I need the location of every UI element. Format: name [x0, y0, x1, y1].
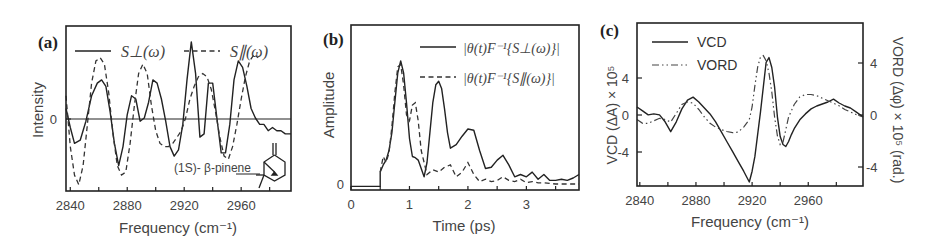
- x-tick-label: 2: [464, 197, 471, 212]
- series-solid-line: [66, 42, 291, 166]
- series-solid-line: [637, 58, 863, 182]
- legend-par-transform: |θ(t)F⁻¹{S∥(ω)}|: [463, 71, 555, 87]
- panel-c-left-tick-label: 4: [622, 71, 629, 86]
- panel-a: (a) 2840288029202960 0 Frequency (cm⁻¹) …: [29, 26, 291, 236]
- legend-s-par: S∥(ω): [230, 43, 268, 61]
- panel-c-frame: [637, 23, 863, 186]
- panel-c-left-y-axis-label: VCD (ΔA) × 10⁵: [604, 66, 620, 165]
- panel-c-tag: (c): [600, 21, 619, 40]
- x-tick-label: 2920: [170, 198, 199, 213]
- x-tick-label: 1: [406, 197, 413, 212]
- x-tick-label: 2880: [681, 193, 710, 208]
- pinene-label: (1S)- β-pinene: [174, 161, 251, 175]
- x-tick-label: 2880: [113, 198, 142, 213]
- panel-a-tag: (a): [38, 33, 58, 52]
- panel-a-y-tick-label: 0: [50, 112, 57, 127]
- x-tick-label: 2840: [625, 193, 654, 208]
- panel-c-x-axis-label: Frequency (cm⁻¹): [691, 213, 809, 230]
- panel-b-y-tick-label: 0: [337, 177, 344, 192]
- x-tick-label: 3: [523, 197, 530, 212]
- legend-vord: VORD: [697, 57, 737, 73]
- panel-b-x-axis-label: Time (ps): [433, 217, 496, 234]
- panel-c-right-y-axis-label: VORD (Δφ) × 10⁵ (rad.): [890, 37, 906, 184]
- beta-pinene-structure-icon: [256, 143, 285, 188]
- panel-c-right-tick-label: 4: [870, 56, 877, 71]
- legend-perp-transform: |θ(t)F⁻¹{S⊥(ω)}|: [463, 41, 560, 57]
- legend-vcd: VCD: [697, 34, 727, 50]
- panel-c-right-tick-label: 0: [870, 108, 877, 123]
- legend-s-perp: S⊥(ω): [121, 43, 165, 61]
- x-tick-label: 2960: [794, 193, 823, 208]
- panel-c: (c) 2840288029202960 4 0 -4 4 0 -4 Frequ…: [600, 21, 906, 230]
- panel-a-x-axis-label: Frequency (cm⁻¹): [119, 219, 237, 236]
- panel-c-curves: [637, 56, 863, 182]
- panel-a-y-axis-label: Intensity: [29, 82, 46, 138]
- panel-b-y-axis-label: Amplitude: [320, 72, 337, 139]
- panel-b: (b) 0123 0 Time (ps) Amplitude |θ(t)F⁻¹{…: [320, 25, 579, 234]
- x-tick-label: 2920: [738, 193, 767, 208]
- figure-canvas: (a) 2840288029202960 0 Frequency (cm⁻¹) …: [0, 0, 935, 243]
- x-tick-label: 2960: [227, 198, 256, 213]
- x-tick-label: 2840: [56, 198, 85, 213]
- panel-b-tag: (b): [323, 30, 344, 49]
- panel-c-right-tick-label: -4: [866, 160, 878, 175]
- panel-c-left-tick-label: 0: [622, 108, 629, 123]
- x-tick-label: 0: [347, 197, 354, 212]
